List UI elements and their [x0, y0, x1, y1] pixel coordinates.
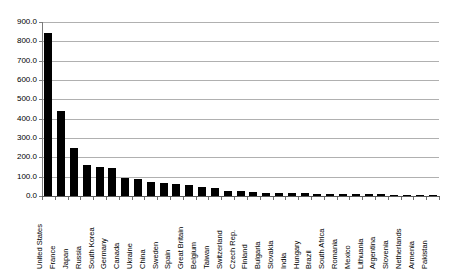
x-tick-mark: [311, 197, 312, 200]
x-category-label-text: Switzerland: [215, 230, 224, 269]
x-tick-mark: [119, 197, 120, 200]
x-tick-mark: [68, 197, 69, 200]
x-tick-mark: [285, 197, 286, 200]
x-category-label-text: Russia: [74, 246, 83, 269]
x-tick-mark: [337, 197, 338, 200]
x-tick-mark: [413, 197, 414, 200]
bar: [134, 179, 142, 196]
y-tick-label: 200.0: [17, 153, 37, 161]
bar: [211, 188, 219, 196]
x-tick-mark: [426, 197, 427, 200]
y-tick-label: 600.0: [17, 76, 37, 84]
x-category-label-text: Lithuania: [356, 239, 365, 269]
bar-chart-figure: 0.0100.0200.0300.0400.0500.0600.0700.080…: [0, 0, 454, 270]
x-category-label-text: Canada: [112, 243, 121, 269]
x-tick-mark: [132, 197, 133, 200]
x-category-label-text: Belgium: [189, 242, 198, 269]
x-tick-mark: [260, 197, 261, 200]
x-tick-mark: [144, 197, 145, 200]
x-category-label-text: Brazil: [304, 250, 313, 269]
x-tick-mark: [157, 197, 158, 200]
x-category-label-text: Taiwan: [202, 246, 211, 269]
x-category-label-text: Spain: [163, 250, 172, 269]
x-tick-mark: [106, 197, 107, 200]
bar: [313, 194, 321, 197]
bar: [185, 185, 193, 196]
x-tick-mark: [362, 197, 363, 200]
x-category-label-text: South Africa: [317, 229, 326, 269]
bar: [224, 191, 232, 196]
x-category-label-text: Ukraine: [125, 243, 134, 269]
x-category-label-text: Czech Rep.: [228, 230, 237, 269]
y-axis: 0.0100.0200.0300.0400.0500.0600.0700.080…: [0, 0, 42, 200]
x-tick-mark: [183, 197, 184, 200]
bars-layer: [42, 22, 439, 196]
y-tick-label: 900.0: [17, 18, 37, 26]
x-category-label-text: South Korea: [87, 227, 96, 269]
bar: [416, 195, 424, 196]
y-tick-label: 100.0: [17, 173, 37, 181]
x-category-label-text: India: [279, 253, 288, 269]
x-tick-mark: [273, 197, 274, 200]
x-tick-mark: [375, 197, 376, 200]
bar: [403, 195, 411, 196]
bar: [352, 194, 360, 196]
bar: [377, 194, 385, 196]
x-category-label-text: Armenia: [407, 241, 416, 269]
x-category-label-text: Great Britain: [176, 227, 185, 269]
x-category-label-text: Pakistan: [420, 240, 429, 269]
x-category-label-text: Romania: [330, 239, 339, 269]
x-tick-mark: [234, 197, 235, 200]
x-category-label-text: Bulgaria: [253, 241, 262, 269]
x-tick-mark: [439, 197, 440, 200]
x-tick-mark: [208, 197, 209, 200]
bar: [96, 167, 104, 196]
bar: [275, 193, 283, 196]
bar: [172, 184, 180, 196]
y-tick-label: 500.0: [17, 95, 37, 103]
y-tick-label: 300.0: [17, 134, 37, 142]
bar: [237, 191, 245, 196]
y-tick-label: 0.0: [26, 192, 37, 200]
bar: [429, 195, 437, 196]
x-tick-mark: [93, 197, 94, 200]
x-category-label: Pakistan: [428, 201, 438, 269]
x-category-label-text: China: [138, 249, 147, 269]
x-tick-mark: [401, 197, 402, 200]
bar: [326, 194, 334, 196]
bar: [288, 193, 296, 196]
x-category-label-text: Japan: [61, 249, 70, 269]
bar: [160, 183, 168, 196]
bar: [121, 178, 129, 196]
y-tick-label: 800.0: [17, 37, 37, 45]
x-tick-mark: [388, 197, 389, 200]
x-category-label-text: Sweden: [151, 242, 160, 269]
x-tick-mark: [298, 197, 299, 200]
x-category-label-text: France: [48, 246, 57, 269]
x-category-label-text: Hungary: [292, 241, 301, 269]
x-tick-mark: [221, 197, 222, 200]
x-tick-mark: [196, 197, 197, 200]
x-category-label-text: Slovakia: [266, 241, 275, 269]
x-category-label-text: Mexico: [343, 245, 352, 269]
x-tick-mark: [324, 197, 325, 200]
bar: [339, 194, 347, 196]
bar: [390, 195, 398, 196]
bar: [262, 193, 270, 196]
bar: [70, 148, 78, 196]
x-tick-mark: [349, 197, 350, 200]
bar: [44, 33, 52, 196]
x-category-label-text: Argentina: [368, 237, 377, 269]
bar: [365, 194, 373, 196]
x-tick-mark: [42, 197, 43, 200]
x-category-label-text: Germany: [99, 238, 108, 269]
bar: [108, 168, 116, 196]
x-category-label-text: Netherlands: [394, 229, 403, 269]
bar: [198, 187, 206, 196]
bar: [301, 193, 309, 196]
y-tick-label: 400.0: [17, 115, 37, 123]
bar: [249, 192, 257, 196]
x-tick-mark: [247, 197, 248, 200]
x-category-label-text: United States: [35, 224, 44, 269]
x-tick-mark: [55, 197, 56, 200]
